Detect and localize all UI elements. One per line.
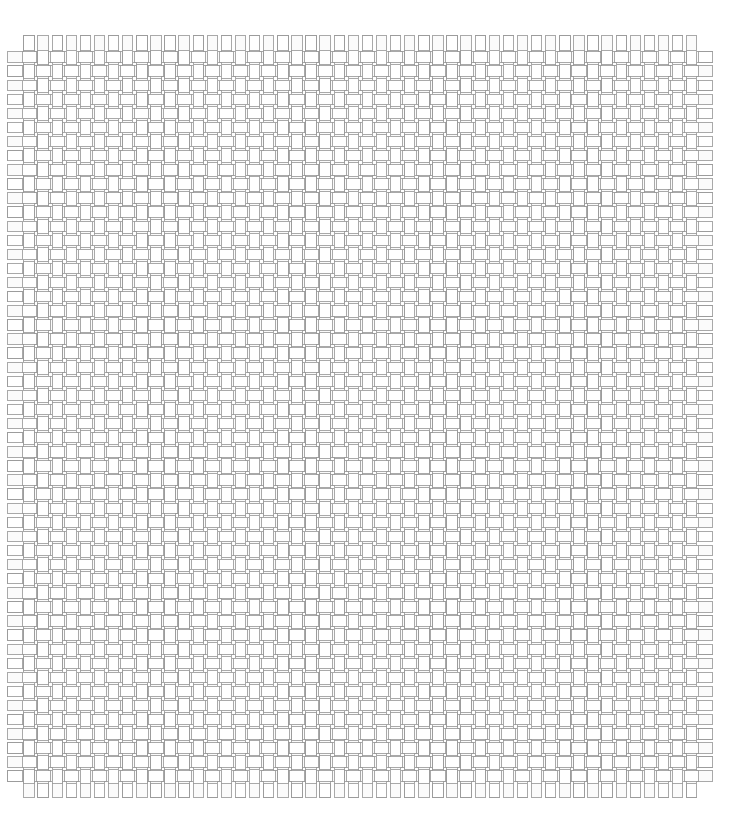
weave-diagram bbox=[0, 0, 737, 816]
weave-canvas: Plain Weave Pattern Monochrome line draw… bbox=[0, 0, 737, 816]
